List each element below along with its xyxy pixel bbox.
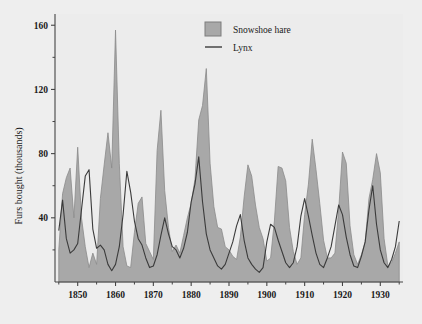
legend-label-lynx: Lynx bbox=[233, 43, 253, 53]
x-tick-label: 1880 bbox=[182, 290, 201, 300]
x-tick-label: 1850 bbox=[68, 290, 87, 300]
chart-figure: 4080120160185018601870188018901900191019… bbox=[0, 0, 422, 324]
x-tick-label: 1900 bbox=[257, 290, 276, 300]
y-tick-label: 80 bbox=[39, 149, 49, 159]
y-tick-label: 40 bbox=[39, 213, 49, 223]
y-tick-label: 160 bbox=[34, 21, 49, 31]
x-tick-label: 1890 bbox=[220, 290, 239, 300]
x-tick-label: 1920 bbox=[333, 290, 352, 300]
x-tick-label: 1930 bbox=[371, 290, 390, 300]
x-tick-label: 1870 bbox=[144, 290, 163, 300]
x-tick-label: 1860 bbox=[106, 290, 125, 300]
legend-label-snowshoe-hare: Snowshoe hare bbox=[233, 25, 291, 35]
plot-area bbox=[55, 14, 403, 282]
legend-swatch-snowshoe-hare bbox=[205, 22, 221, 36]
hare-lynx-population-chart: 4080120160185018601870188018901900191019… bbox=[0, 0, 422, 324]
x-tick-label: 1910 bbox=[295, 290, 314, 300]
y-tick-label: 120 bbox=[34, 85, 49, 95]
y-axis-title: Furs bought (thousands) bbox=[13, 127, 25, 224]
